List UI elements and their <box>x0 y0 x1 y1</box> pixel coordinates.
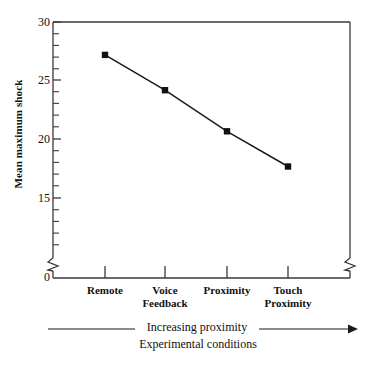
chart-svg <box>0 0 374 365</box>
data-point-touch-proximity <box>285 163 291 169</box>
chart-figure: Mean maximum shock 30 25 20 15 0 Remote … <box>0 0 374 365</box>
data-point-proximity <box>224 128 230 134</box>
data-point-remote <box>102 52 108 58</box>
plot-frame <box>53 22 350 278</box>
data-series-line <box>105 55 288 167</box>
axis-break-icon-left <box>48 258 58 271</box>
data-point-voice-feedback <box>162 87 168 93</box>
arrow-head-icon <box>348 325 358 334</box>
axis-break-icon-right <box>345 258 355 271</box>
x-ticks <box>105 266 288 278</box>
y-major-ticks <box>53 22 61 198</box>
